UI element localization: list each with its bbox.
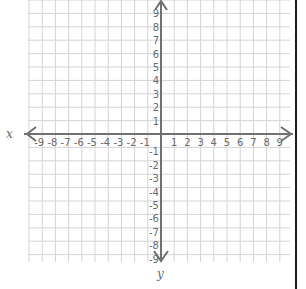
x-tick-label: -3 [113, 137, 123, 148]
y-tick-label: -8 [149, 240, 159, 251]
x-tick-label: 8 [263, 137, 269, 148]
y-tick-label: 2 [153, 102, 159, 113]
x-tick-label: -5 [87, 137, 97, 148]
y-tick-label: 9 [153, 8, 159, 19]
y-tick-label: -1 [149, 146, 159, 157]
y-tick-label: -7 [149, 227, 159, 238]
x-tick-label: 7 [250, 137, 256, 148]
y-tick-label: -6 [149, 213, 159, 224]
y-tick-label: 6 [153, 49, 159, 60]
y-tick-label: -3 [149, 173, 159, 184]
y-axis-label: y [156, 267, 164, 281]
y-tick-label: 5 [153, 62, 159, 73]
y-tick-label: 8 [153, 22, 159, 33]
x-axis-label: x [6, 127, 13, 141]
x-tick-label: -9 [34, 137, 44, 148]
x-tick-label: 9 [277, 137, 283, 148]
y-tick-label: -2 [149, 160, 159, 171]
y-tick-label: -9 [149, 254, 159, 265]
right-border [295, 0, 297, 289]
x-tick-label: 1 [171, 137, 177, 148]
y-tick-label: 7 [153, 35, 159, 46]
x-tick-label: 6 [237, 137, 243, 148]
grid-lines [28, 0, 290, 262]
coordinate-plane: -9-8-7-6-5-4-3-2-1123456789 987654321-1-… [0, 0, 306, 289]
y-tick-label: 1 [153, 116, 159, 127]
y-tick-label: 4 [153, 75, 159, 86]
y-tick-labels: 987654321-1-2-3-4-5-6-7-8-9 [149, 8, 159, 264]
y-tick-label: -4 [149, 187, 159, 198]
y-tick-label: 3 [153, 89, 159, 100]
x-tick-label: -6 [74, 137, 84, 148]
y-tick-label: -5 [149, 200, 159, 211]
x-tick-label: -8 [47, 137, 57, 148]
x-tick-label: 3 [197, 137, 203, 148]
x-tick-label: -4 [100, 137, 110, 148]
x-tick-label: -2 [127, 137, 137, 148]
x-tick-label: 2 [184, 137, 190, 148]
x-tick-label: 4 [211, 137, 217, 148]
x-tick-label: -7 [61, 137, 71, 148]
x-tick-label: 5 [224, 137, 230, 148]
